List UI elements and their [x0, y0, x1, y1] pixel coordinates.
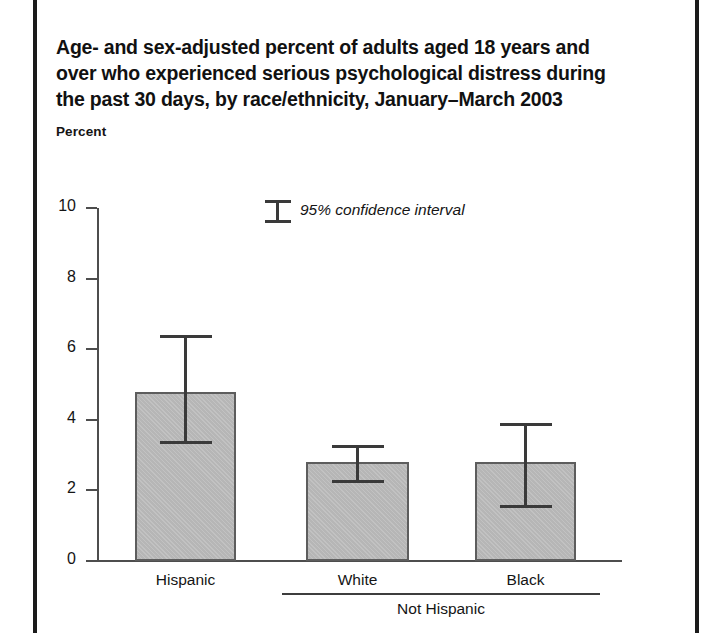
x-axis-group-label: Not Hispanic [282, 600, 600, 618]
y-axis-tick [86, 560, 97, 562]
error-bar-cap-lower-white [332, 480, 384, 483]
y-axis-tick [86, 348, 97, 350]
x-axis-label-hispanic: Hispanic [105, 571, 266, 589]
y-axis-tick-label: 2 [32, 479, 76, 497]
error-bar-stem-white [356, 445, 359, 480]
error-bar-cap-upper-black [500, 423, 552, 426]
x-axis-group-rule [282, 593, 600, 595]
y-axis-tick [86, 419, 97, 421]
y-axis-tick-label: 8 [32, 268, 76, 286]
error-bar-icon [265, 200, 291, 223]
error-bar-cap-upper-white [332, 445, 384, 448]
y-axis-tick-label: 4 [32, 409, 76, 427]
legend-label: 95% confidence interval [300, 201, 465, 219]
error-bar-stem-hispanic [184, 335, 187, 441]
y-axis-tick-label: 10 [32, 197, 76, 215]
y-axis-tick [86, 489, 97, 491]
bar-chart: 95% confidence interval 0246810HispanicW… [0, 0, 716, 633]
y-axis-tick-label: 0 [32, 550, 76, 568]
y-axis-tick [86, 207, 97, 209]
y-axis-line [97, 208, 99, 562]
x-axis-label-black: Black [445, 571, 606, 589]
y-axis-tick-label: 6 [32, 338, 76, 356]
error-bar-icon-cap-bottom [265, 220, 291, 223]
error-bar-cap-lower-hispanic [160, 441, 212, 444]
error-bar-cap-lower-black [500, 505, 552, 508]
figure-page: Age- and sex-adjusted percent of adults … [0, 0, 716, 633]
error-bar-stem-black [524, 423, 527, 504]
error-bar-cap-upper-hispanic [160, 335, 212, 338]
x-axis-label-white: White [276, 571, 439, 589]
y-axis-tick [86, 278, 97, 280]
